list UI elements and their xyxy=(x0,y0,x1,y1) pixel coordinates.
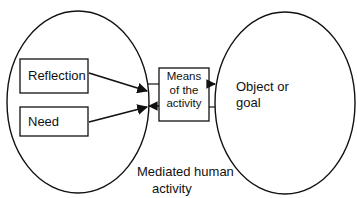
object-goal-label-line1: Object or xyxy=(236,79,289,95)
need-label: Need xyxy=(28,114,59,129)
reflection-label: Reflection xyxy=(28,68,86,83)
means-label: Means of the activity xyxy=(160,70,208,111)
mediated-activity-label-line2: activity xyxy=(137,180,234,197)
arrow-need-to-means xyxy=(89,107,147,122)
means-label-line2: of the xyxy=(160,84,208,98)
mediated-activity-ellipse xyxy=(7,11,149,193)
means-label-line3: activity xyxy=(160,97,208,111)
mediated-activity-label-line1: Mediated human xyxy=(137,163,234,180)
mediated-activity-label: Mediated human activity xyxy=(137,163,234,197)
arrow-reflection-to-means xyxy=(89,73,147,91)
object-goal-label-line2: goal xyxy=(236,95,289,111)
object-goal-label: Object or goal xyxy=(236,79,289,111)
means-label-line1: Means xyxy=(160,70,208,84)
